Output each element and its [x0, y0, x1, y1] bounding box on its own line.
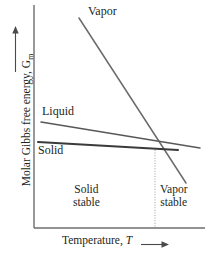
- region-label-vapor-stable-line1: Vapor: [160, 183, 187, 196]
- x-axis-label-text: Temperature,: [62, 234, 123, 246]
- region-label-solid-stable: Solid stable: [73, 183, 100, 209]
- vapor-curve-label: Vapor: [88, 5, 117, 18]
- y-axis-label: Molar Gibbs free energy, Gm: [20, 35, 36, 205]
- region-label-solid-stable-line2: stable: [73, 196, 100, 209]
- y-axis-label-symbol: G: [20, 60, 32, 68]
- y-axis-label-subscript: m: [26, 54, 35, 60]
- gibbs-energy-diagram: Vapor Liquid Solid Solid stable Vapor st…: [0, 0, 210, 257]
- y-axis-label-text: Molar Gibbs free energy,: [20, 71, 32, 186]
- x-axis-label: Temperature, T: [62, 234, 132, 247]
- x-axis-label-symbol: T: [126, 234, 132, 246]
- region-label-vapor-stable: Vapor stable: [160, 183, 187, 209]
- vapor-curve: [79, 18, 186, 183]
- region-label-solid-stable-line1: Solid: [73, 183, 100, 196]
- region-label-vapor-stable-line2: stable: [160, 196, 187, 209]
- liquid-curve-label: Liquid: [42, 105, 74, 118]
- up-arrow-icon: [11, 26, 20, 72]
- right-arrow-icon: [141, 240, 169, 249]
- solid-curve-label: Solid: [38, 144, 63, 157]
